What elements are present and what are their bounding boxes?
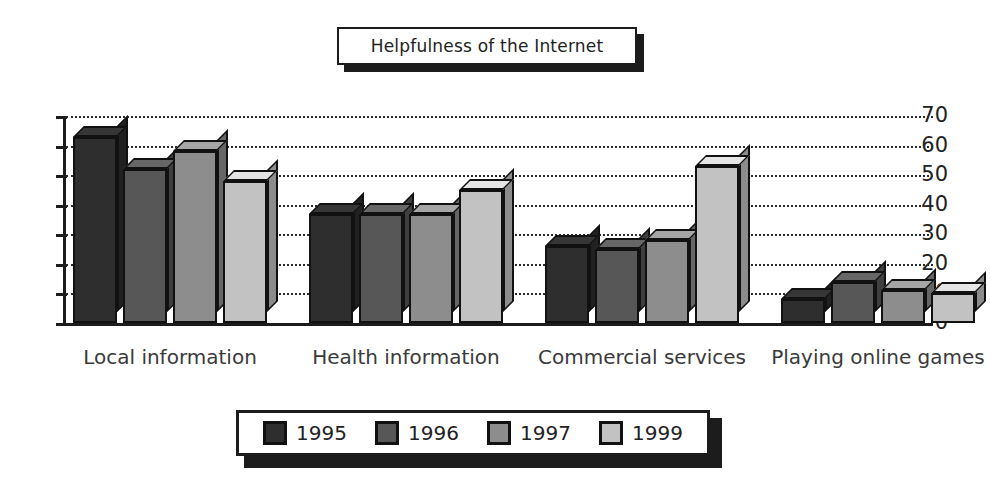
x-axis-line xyxy=(63,323,933,326)
bar xyxy=(73,137,117,323)
legend-item[interactable]: 1999 xyxy=(599,421,683,445)
bar xyxy=(123,169,167,323)
legend-label: 1999 xyxy=(632,421,683,445)
legend-item[interactable]: 1996 xyxy=(375,421,459,445)
category-label: Commercial services xyxy=(505,345,779,369)
legend-swatch xyxy=(263,421,287,445)
bar xyxy=(173,151,217,323)
chart-legend: 1995199619971999 xyxy=(236,410,716,466)
legend-swatch xyxy=(487,421,511,445)
y-axis-line xyxy=(63,116,66,323)
chart-plot-area: 010203040506070 xyxy=(0,95,948,345)
category-label: Playing online games xyxy=(741,345,990,369)
legend-box: 1995199619971999 xyxy=(236,410,710,456)
bar xyxy=(695,166,739,323)
page-title: Helpfulness of the Internet xyxy=(371,36,604,56)
category-label: Health information xyxy=(269,345,543,369)
legend-label: 1996 xyxy=(408,421,459,445)
category-label: Local information xyxy=(33,345,307,369)
bar xyxy=(359,214,403,323)
legend-item[interactable]: 1995 xyxy=(263,421,347,445)
bar-side-face xyxy=(503,168,514,312)
legend-label: 1995 xyxy=(296,421,347,445)
bar-side-face xyxy=(975,271,986,312)
bar xyxy=(409,214,453,323)
bar xyxy=(309,214,353,323)
legend-item[interactable]: 1997 xyxy=(487,421,571,445)
legend-swatch xyxy=(375,421,399,445)
legend-label: 1997 xyxy=(520,421,571,445)
bar-side-face xyxy=(267,159,278,312)
gridline xyxy=(66,116,933,118)
chart-title-container: Helpfulness of the Internet xyxy=(337,27,637,65)
bar xyxy=(459,190,503,323)
title-box: Helpfulness of the Internet xyxy=(337,27,637,65)
bar-side-face xyxy=(739,144,750,312)
bar xyxy=(223,181,267,323)
legend-swatch xyxy=(599,421,623,445)
